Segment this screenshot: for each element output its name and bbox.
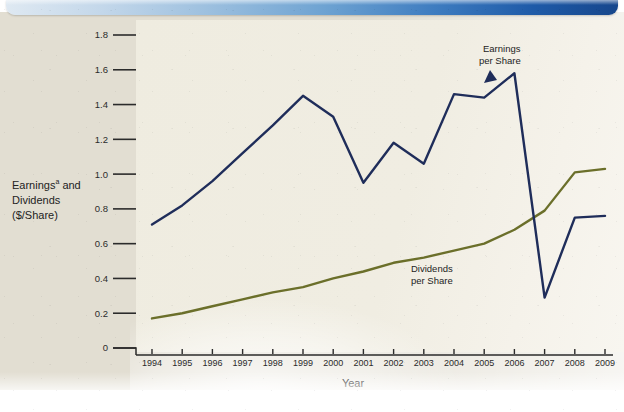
- dividends-label-line-1: Dividends: [411, 263, 453, 274]
- y-tick-label: 1.4: [95, 99, 108, 110]
- x-tick-label: 2001: [353, 358, 373, 368]
- x-tick-label: 2000: [323, 358, 343, 368]
- x-tick-label: 2002: [384, 358, 404, 368]
- y-tick-label: 0.6: [95, 238, 108, 249]
- x-tick-label: 2003: [414, 358, 434, 368]
- dividends-label-line-2: per Share: [411, 275, 453, 286]
- y-tick-label: 1.2: [95, 134, 108, 145]
- x-tick-label: 1994: [142, 358, 162, 368]
- figure-page: Earningsa and Dividends ($/Share) 00.20.…: [0, 0, 624, 412]
- y-axis-ticks: [113, 35, 136, 348]
- series-line: [152, 73, 605, 297]
- x-tick-label: 2009: [595, 358, 615, 368]
- x-tick-label: 2007: [535, 358, 555, 368]
- x-tick-label: 1998: [263, 358, 283, 368]
- earnings-label-line-1: Earnings: [483, 43, 521, 54]
- y-tick-label: 1.6: [95, 64, 108, 75]
- x-tick-label: 2006: [504, 358, 524, 368]
- x-axis-ticks: [152, 349, 605, 354]
- y-tick-label: 0: [103, 342, 108, 353]
- x-tick-label: 1995: [172, 358, 192, 368]
- chart-svg: 00.20.40.60.81.01.21.41.61.8 19941995199…: [0, 0, 624, 412]
- y-tick-label: 1.0: [95, 169, 108, 180]
- y-tick-label: 1.8: [95, 29, 108, 40]
- x-tick-label: 1999: [293, 358, 313, 368]
- earnings-label-leader: [484, 70, 497, 83]
- x-axis-tick-labels: 1994199519961997199819992000200120022003…: [142, 358, 615, 368]
- x-tick-label: 2004: [444, 358, 464, 368]
- y-tick-label: 0.2: [95, 308, 108, 319]
- x-tick-label: 2008: [565, 358, 585, 368]
- x-tick-label: 2005: [474, 358, 494, 368]
- y-tick-label: 0.8: [95, 203, 108, 214]
- x-tick-label: 1997: [233, 358, 253, 368]
- y-tick-label: 0.4: [95, 273, 108, 284]
- series-earnings-per-share: [152, 73, 605, 297]
- y-axis-tick-labels: 00.20.40.60.81.01.21.41.61.8: [95, 29, 108, 353]
- earnings-label-arrow-icon: [484, 70, 497, 83]
- x-tick-label: 1996: [202, 358, 222, 368]
- earnings-label-line-2: per Share: [479, 55, 521, 66]
- x-axis-title: Year: [342, 377, 365, 389]
